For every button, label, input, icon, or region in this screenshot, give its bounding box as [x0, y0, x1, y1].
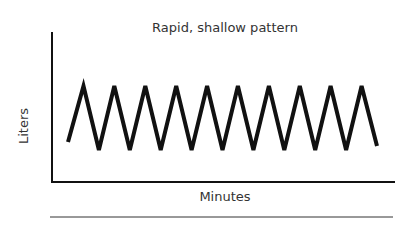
chart-plot — [0, 0, 408, 225]
breathing-line — [68, 86, 377, 150]
